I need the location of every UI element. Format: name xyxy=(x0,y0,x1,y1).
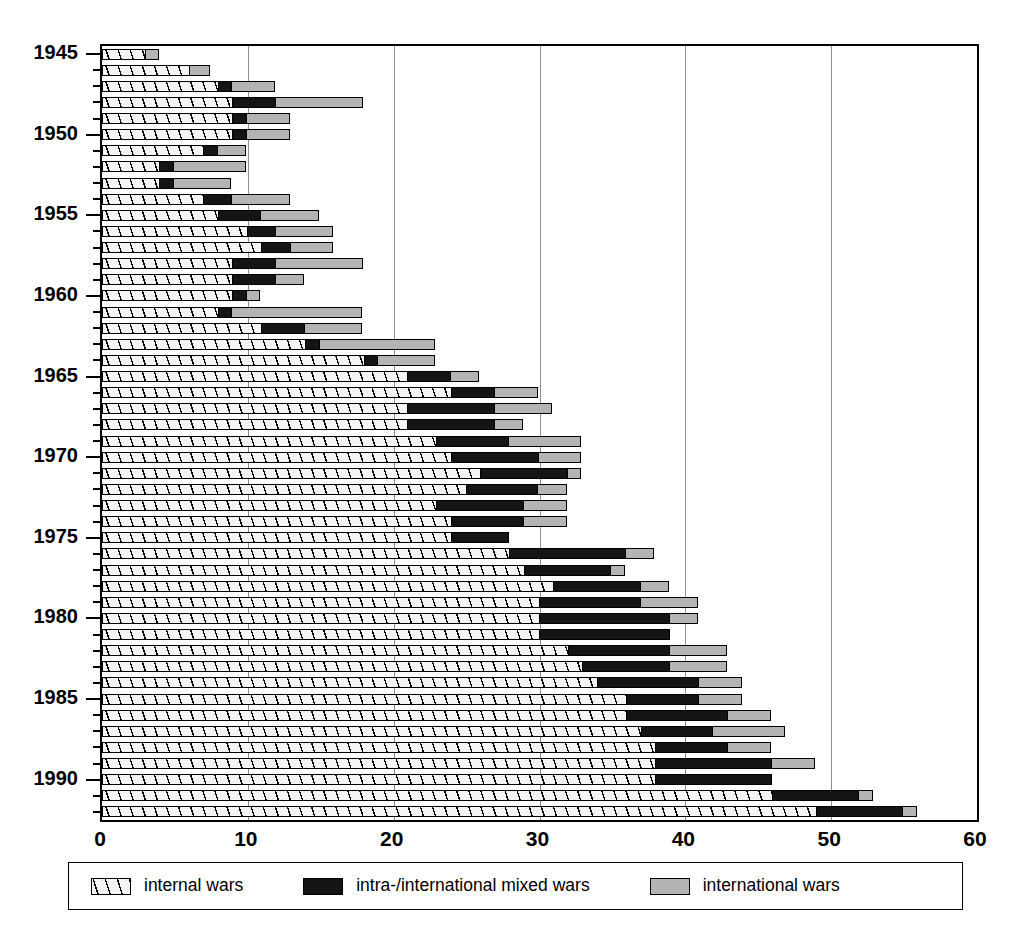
x-axis-tick-labels: 0102030405060 xyxy=(100,820,975,860)
y-tick-1976 xyxy=(93,553,102,555)
war-types-stacked-bar-chart: 1945195019551960196519701975198019851990… xyxy=(0,0,1031,951)
y-tick-1955 xyxy=(86,214,102,216)
y-axis-label-1970: 1970 xyxy=(0,445,78,465)
y-tick-1967 xyxy=(93,408,102,410)
y-tick-1977 xyxy=(93,569,102,571)
y-tick-1979 xyxy=(93,601,102,603)
legend-label-mixed-wars: intra-/international mixed wars xyxy=(356,877,589,895)
y-tick-1945 xyxy=(86,53,102,55)
y-tick-1974 xyxy=(93,521,102,523)
chart-legend: internal wars intra-/international mixed… xyxy=(68,862,963,910)
y-tick-1949 xyxy=(93,118,102,120)
y-axis-label-1945: 1945 xyxy=(0,42,78,62)
legend-item-internal-wars: internal wars xyxy=(91,877,243,895)
y-tick-1951 xyxy=(93,150,102,152)
y-tick-1990 xyxy=(86,779,102,781)
y-tick-1953 xyxy=(93,182,102,184)
x-axis-label-0: 0 xyxy=(94,828,106,849)
y-tick-1961 xyxy=(93,311,102,313)
y-tick-1956 xyxy=(93,230,102,232)
y-tick-1959 xyxy=(93,279,102,281)
x-axis-label-50: 50 xyxy=(817,828,840,849)
x-axis-label-20: 20 xyxy=(380,828,403,849)
y-axis-label-1955: 1955 xyxy=(0,203,78,223)
y-tick-1966 xyxy=(93,392,102,394)
y-tick-1991 xyxy=(93,795,102,797)
x-axis-label-60: 60 xyxy=(963,828,986,849)
y-tick-1992 xyxy=(93,811,102,813)
legend-label-international-wars: international wars xyxy=(703,877,840,895)
y-tick-1964 xyxy=(93,359,102,361)
y-tick-1952 xyxy=(93,166,102,168)
y-tick-1971 xyxy=(93,472,102,474)
legend-label-internal-wars: internal wars xyxy=(144,877,243,895)
y-tick-1972 xyxy=(93,488,102,490)
y-axis-label-1960: 1960 xyxy=(0,284,78,304)
gray-swatch-icon xyxy=(650,878,690,895)
y-tick-1950 xyxy=(86,134,102,136)
y-tick-1984 xyxy=(93,682,102,684)
plot-area xyxy=(100,44,979,822)
y-tick-1981 xyxy=(93,634,102,636)
y-tick-1987 xyxy=(93,730,102,732)
y-tick-1960 xyxy=(86,295,102,297)
y-tick-1970 xyxy=(86,456,102,458)
y-axis-label-1965: 1965 xyxy=(0,365,78,385)
y-tick-1968 xyxy=(93,424,102,426)
y-axis-label-1950: 1950 xyxy=(0,123,78,143)
y-tick-1975 xyxy=(86,537,102,539)
y-tick-1969 xyxy=(93,440,102,442)
y-tick-1982 xyxy=(93,650,102,652)
y-tick-1963 xyxy=(93,343,102,345)
y-axis-ticks xyxy=(102,46,977,820)
x-axis-label-30: 30 xyxy=(526,828,549,849)
y-tick-1957 xyxy=(93,247,102,249)
black-swatch-icon xyxy=(303,878,343,895)
y-tick-1947 xyxy=(93,85,102,87)
y-axis-label-1975: 1975 xyxy=(0,526,78,546)
y-tick-1985 xyxy=(86,698,102,700)
x-axis-label-40: 40 xyxy=(672,828,695,849)
y-tick-1946 xyxy=(93,69,102,71)
y-tick-1978 xyxy=(93,585,102,587)
legend-item-mixed-wars: intra-/international mixed wars xyxy=(303,877,589,895)
y-tick-1980 xyxy=(86,617,102,619)
y-axis-label-1980: 1980 xyxy=(0,606,78,626)
y-tick-1988 xyxy=(93,746,102,748)
y-axis-label-1985: 1985 xyxy=(0,687,78,707)
y-tick-1973 xyxy=(93,505,102,507)
x-axis-label-10: 10 xyxy=(234,828,257,849)
y-tick-1965 xyxy=(86,376,102,378)
y-tick-1954 xyxy=(93,198,102,200)
y-axis-label-1990: 1990 xyxy=(0,768,78,788)
y-tick-1958 xyxy=(93,263,102,265)
y-tick-1948 xyxy=(93,101,102,103)
y-tick-1962 xyxy=(93,327,102,329)
hatched-swatch-icon xyxy=(91,878,131,895)
y-tick-1983 xyxy=(93,666,102,668)
y-tick-1986 xyxy=(93,714,102,716)
legend-item-international-wars: international wars xyxy=(650,877,840,895)
y-tick-1989 xyxy=(93,763,102,765)
